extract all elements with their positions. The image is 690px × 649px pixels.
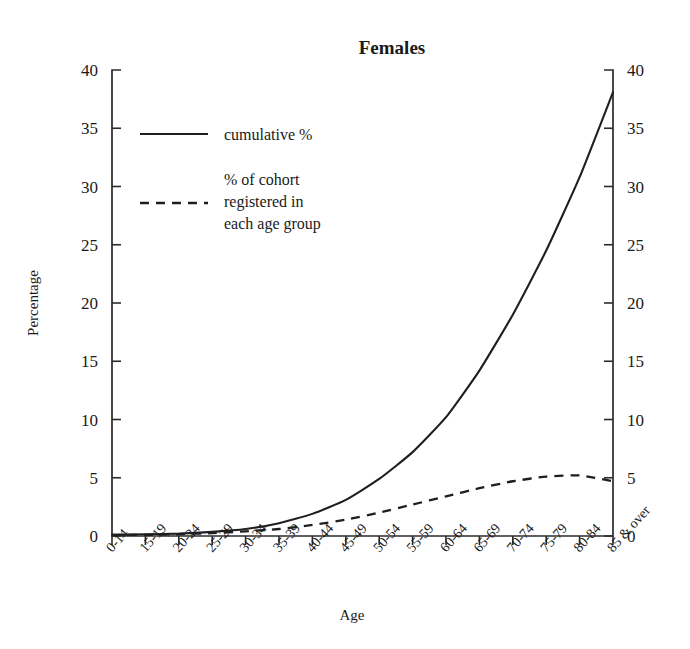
y-axis-label: Percentage: [25, 270, 41, 336]
x-axis-label: Age: [340, 607, 365, 623]
y-tick-label-right: 40: [627, 61, 644, 80]
legend-label-cohort-line1: % of cohort: [224, 171, 300, 188]
y-tick-label-right: 20: [627, 294, 644, 313]
y-tick-label-right: 15: [627, 352, 644, 371]
y-tick-label-left: 0: [90, 527, 99, 546]
legend-label-cohort-line3: each age group: [224, 215, 321, 233]
y-tick-label-right: 35: [627, 119, 644, 138]
y-tick-label-right: 25: [627, 236, 644, 255]
y-tick-label-right: 5: [627, 469, 636, 488]
legend-label-cohort-line2: registered in: [224, 193, 304, 211]
y-tick-label-left: 35: [81, 119, 98, 138]
chart-figure: Females Percentage Age 0510152025303540 …: [0, 0, 690, 649]
y-tick-label-left: 20: [81, 294, 98, 313]
y-tick-label-left: 5: [90, 469, 99, 488]
y-tick-label-left: 40: [81, 61, 98, 80]
y-tick-label-left: 30: [81, 178, 98, 197]
legend-label-cumulative: cumulative %: [224, 126, 312, 143]
females-line-chart: Females Percentage Age 0510152025303540 …: [0, 0, 690, 649]
y-tick-label-left: 25: [81, 236, 98, 255]
y-tick-label-left: 10: [81, 411, 98, 430]
y-tick-label-right: 10: [627, 411, 644, 430]
chart-title: Females: [359, 37, 425, 58]
y-tick-label-right: 30: [627, 178, 644, 197]
y-tick-label-left: 15: [81, 352, 98, 371]
